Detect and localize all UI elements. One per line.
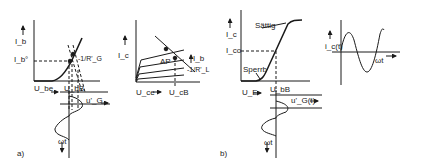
wt-axis-label-b: ωt [264, 139, 272, 147]
ube-axis-label: U_be [34, 85, 53, 93]
wt-axis-label-out: ωt [375, 57, 383, 65]
ug-signal-label: u'_G [86, 97, 103, 105]
output-characteristic [125, 20, 200, 92]
output-load-line-label: -1/R'_L [187, 66, 209, 73]
transistor-diagram: I_b I_b° -1/R'_G U_be U_bB u'_G ωt a) I_… [0, 0, 421, 166]
saturation-label: Sättig [255, 22, 275, 30]
ug-t-signal-label: u'_G(t) [291, 97, 315, 105]
ib-axis-label: I_b [15, 38, 26, 46]
ue-axis-label: U_E [242, 89, 258, 97]
input-load-line-label: -1/R'_G [78, 55, 102, 62]
uce-axis-label: U_ce [136, 89, 155, 97]
ico-point-label: I_co [226, 47, 241, 55]
ib-point-label: I_b° [14, 56, 28, 64]
ucb-point-label: U_cB [169, 89, 189, 97]
output-waveform [330, 20, 400, 85]
wt-axis-label-a: ωt [58, 138, 66, 146]
ubb-point-label: U_bB [64, 85, 84, 93]
ib-param-label: I_b [193, 55, 204, 63]
cutoff-label: Sperrb [243, 66, 267, 74]
ic-axis-label-b: I_c [226, 31, 237, 39]
ic-t-axis-label: i_c(t) [325, 43, 343, 51]
ic-axis-label: I_c [118, 52, 129, 60]
caption-b: b) [220, 150, 227, 158]
caption-a: a) [17, 150, 24, 158]
ap-label: AP [160, 58, 171, 66]
ubb-point-label-b: U_bB [270, 86, 290, 94]
